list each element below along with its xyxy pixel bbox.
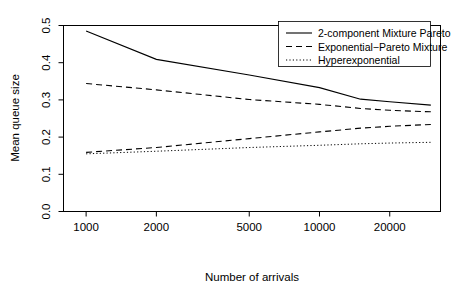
x-tick-label: 10000	[303, 221, 335, 233]
y-tick-label: 0.3	[40, 92, 52, 108]
y-tick-label: 0.0	[40, 204, 52, 220]
legend-label: Hyperexponential	[318, 54, 400, 66]
x-tick-label: 20000	[374, 221, 406, 233]
y-tick-label: 0.5	[40, 18, 52, 34]
legend-label: 2-component Mixture Pareto	[318, 27, 451, 39]
chart-svg: 0.00.10.20.30.40.5 100020005000100002000…	[0, 0, 460, 301]
chart-container: 0.00.10.20.30.40.5 100020005000100002000…	[0, 0, 460, 301]
y-axis-title: Mean queue size	[9, 74, 21, 162]
y-tick-label: 0.1	[40, 166, 52, 182]
x-axis-title: Number of arrivals	[205, 271, 299, 283]
x-tick-label: 5000	[236, 221, 262, 233]
y-tick-label: 0.2	[40, 129, 52, 145]
chart-legend: 2-component Mixture ParetoExponential−Pa…	[279, 22, 451, 67]
x-tick-label: 1000	[73, 221, 99, 233]
y-tick-label: 0.4	[40, 54, 52, 71]
x-tick-label: 2000	[144, 221, 170, 233]
legend-label: Exponential−Pareto Mixture	[318, 41, 447, 53]
